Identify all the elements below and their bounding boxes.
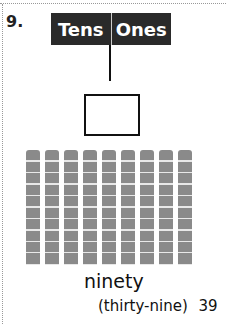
dotted-left-border bbox=[2, 4, 3, 324]
ten-rod bbox=[102, 150, 116, 265]
answer-box[interactable] bbox=[84, 94, 140, 136]
ones-label: Ones bbox=[112, 13, 172, 45]
ten-rod bbox=[26, 150, 40, 265]
base-ten-rods bbox=[26, 150, 206, 266]
divider-line bbox=[109, 45, 111, 81]
page-footer: (thirty-nine) 39 bbox=[98, 297, 218, 315]
ten-rod bbox=[140, 150, 154, 265]
ten-rod bbox=[178, 150, 192, 265]
problem-number: 9. bbox=[6, 12, 23, 31]
page-hint: (thirty-nine) bbox=[98, 297, 188, 315]
ten-rod bbox=[159, 150, 173, 265]
place-value-header: Tens Ones bbox=[51, 13, 171, 45]
ten-rod bbox=[64, 150, 78, 265]
dotted-top-border bbox=[0, 3, 226, 4]
ten-rod bbox=[45, 150, 59, 265]
ten-rod bbox=[83, 150, 97, 265]
ten-rod bbox=[121, 150, 135, 265]
tens-label: Tens bbox=[51, 13, 112, 45]
page-number: 39 bbox=[199, 297, 218, 315]
number-word: ninety bbox=[84, 270, 144, 292]
